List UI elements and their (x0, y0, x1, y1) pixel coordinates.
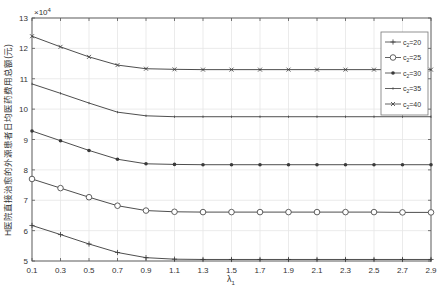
x-tick-label: 0.5 (83, 266, 95, 275)
y-tick-label: 7 (24, 196, 29, 205)
y-tick-label: 5 (24, 257, 29, 266)
circle-marker (229, 209, 235, 215)
y-multiplier: ×104 (34, 7, 52, 17)
x-tick-label: 2.5 (368, 266, 380, 275)
dot-marker (391, 71, 395, 75)
x-tick-label: 0.7 (112, 266, 124, 275)
dot-marker (344, 163, 348, 167)
y-multiplier-exponent: 4 (48, 7, 52, 13)
x-tick-label: 2.7 (397, 266, 409, 275)
x-tick-label: 1.7 (254, 266, 266, 275)
legend: c2=20c2=25c2=30c2=35c2=40 (381, 32, 428, 115)
circle-marker (58, 185, 64, 191)
y-tick-label: 12 (19, 44, 28, 53)
x-tick-label: 2.1 (311, 266, 323, 275)
dot-marker (173, 163, 177, 167)
dot-marker (87, 149, 91, 153)
circle-marker (371, 209, 377, 215)
y-tick-label: 6 (24, 227, 29, 236)
dot-marker (258, 163, 262, 167)
circle-marker (400, 210, 406, 216)
circle-marker (314, 209, 320, 215)
circle-marker (115, 203, 121, 209)
chart-canvas: 0.10.30.50.70.91.11.31.51.71.92.12.32.52… (0, 0, 446, 299)
circle-marker (143, 208, 149, 214)
line-chart: 0.10.30.50.70.91.11.31.51.71.92.12.32.52… (0, 0, 446, 299)
x-tick-label: 2.3 (340, 266, 352, 275)
dot-marker (59, 139, 63, 143)
circle-marker (428, 210, 434, 216)
dot-marker (116, 157, 120, 161)
x-tick-label: 0.3 (55, 266, 67, 275)
dot-marker (30, 129, 34, 133)
y-tick-label: 8 (24, 166, 29, 175)
x-tick-label: 0.1 (26, 266, 38, 275)
circle-marker (343, 209, 349, 215)
grid-lines (32, 18, 431, 261)
dot-marker (230, 163, 234, 167)
x-axis-label: λ1 (227, 274, 236, 286)
y-tick-label: 9 (24, 136, 29, 145)
circle-marker (200, 209, 206, 215)
dot-marker (429, 163, 433, 167)
circle-marker (172, 209, 178, 215)
dot-marker (372, 163, 376, 167)
dot-marker (401, 163, 405, 167)
y-tick-label: 10 (19, 105, 28, 114)
y-axis-label: H医院直接治愈的外源患者日均医药费用总额(元) (3, 44, 13, 236)
dot-marker (144, 162, 148, 166)
x-tick-label: 2.9 (425, 266, 437, 275)
circle-marker (390, 55, 396, 61)
dot-marker (201, 163, 205, 167)
dot-marker (287, 163, 291, 167)
y-tick-label: 11 (20, 75, 29, 84)
circle-marker (86, 194, 92, 200)
x-tick-label: 1.9 (283, 266, 295, 275)
dot-marker (315, 163, 319, 167)
x-tick-label: 0.9 (140, 266, 152, 275)
x-tick-label: 1.3 (197, 266, 209, 275)
circle-marker (257, 209, 263, 215)
y-tick-label: 13 (19, 14, 28, 23)
x-axis-label-subscript: 1 (232, 280, 236, 286)
circle-marker (286, 209, 292, 215)
x-tick-label: 1.1 (169, 266, 181, 275)
circle-marker (29, 176, 35, 182)
